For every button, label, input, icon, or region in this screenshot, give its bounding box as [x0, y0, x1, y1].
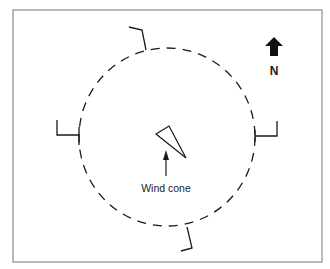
marker-right	[255, 121, 277, 142]
wind-cone-label: Wind cone	[141, 182, 191, 194]
north-label: N	[270, 64, 279, 78]
wind-cone-triangle-icon	[156, 126, 186, 158]
marker-bottom	[181, 227, 192, 251]
marker-left	[57, 120, 79, 145]
north-arrow-icon	[265, 37, 283, 56]
up-arrow-icon	[163, 150, 169, 176]
marker-top	[129, 27, 146, 50]
wind-cone-diagram: Wind cone N	[0, 0, 330, 269]
